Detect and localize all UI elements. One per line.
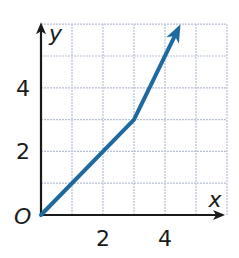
x-tick-label: 2 <box>96 226 110 251</box>
origin-label: O <box>14 204 31 229</box>
y-tick-label: 4 <box>16 76 30 101</box>
y-axis-label: y <box>48 21 63 46</box>
series-line <box>41 33 176 215</box>
y-tick-labels: 24 <box>16 76 30 165</box>
line-chart: x y O 24 24 <box>0 0 239 258</box>
x-axis-label: x <box>207 187 222 212</box>
y-tick-label: 2 <box>16 139 30 164</box>
x-tick-labels: 24 <box>96 226 172 251</box>
x-tick-label: 4 <box>158 226 172 251</box>
